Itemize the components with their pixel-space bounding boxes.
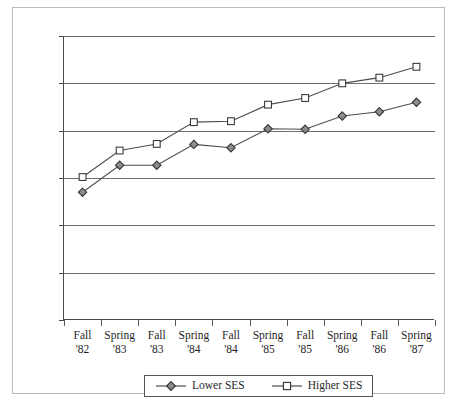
data-point[interactable]: [375, 108, 383, 116]
data-point[interactable]: [264, 125, 272, 133]
x-tick-mark: [138, 320, 139, 326]
x-tick-mark: [287, 320, 288, 326]
legend-square-icon: [271, 380, 303, 392]
chart-page: 0100200300400500600 Fall'82Spring'83Fall…: [0, 0, 457, 406]
data-point[interactable]: [153, 161, 161, 169]
legend-item-lower-ses[interactable]: Lower SES: [155, 379, 245, 392]
legend-diamond-icon: [155, 380, 187, 392]
x-axis-label: Spring'87: [384, 329, 448, 356]
legend-item-higher-ses[interactable]: Higher SES: [271, 379, 363, 392]
data-point[interactable]: [265, 101, 272, 108]
data-point[interactable]: [153, 141, 160, 148]
data-point[interactable]: [115, 161, 123, 169]
chart-frame: 0100200300400500600 Fall'82Spring'83Fall…: [12, 7, 445, 394]
data-point[interactable]: [190, 119, 197, 126]
data-point[interactable]: [338, 112, 346, 120]
x-tick-mark: [361, 320, 362, 326]
x-tick-mark: [101, 320, 102, 326]
data-point[interactable]: [190, 140, 198, 148]
data-point[interactable]: [228, 118, 235, 125]
data-point[interactable]: [79, 174, 86, 181]
series-layer: [64, 36, 435, 320]
x-label-year: '87: [384, 343, 448, 357]
data-point[interactable]: [412, 98, 420, 106]
data-point[interactable]: [301, 125, 309, 133]
data-point[interactable]: [78, 188, 86, 196]
x-label-season: Spring: [401, 329, 432, 341]
data-point[interactable]: [339, 80, 346, 87]
series-line-higher-ses: [83, 67, 417, 177]
x-tick-mark: [435, 320, 436, 326]
x-tick-mark: [398, 320, 399, 326]
data-point[interactable]: [302, 95, 309, 102]
data-point[interactable]: [227, 144, 235, 152]
data-point[interactable]: [376, 74, 383, 81]
chart-legend: Lower SES Higher SES: [144, 375, 373, 397]
legend-label-higher-ses: Higher SES: [308, 379, 363, 392]
x-tick-mark: [324, 320, 325, 326]
plot-area: 0100200300400500600 Fall'82Spring'83Fall…: [63, 36, 434, 320]
x-tick-mark: [250, 320, 251, 326]
data-point[interactable]: [413, 63, 420, 70]
x-tick-mark: [212, 320, 213, 326]
x-tick-mark: [175, 320, 176, 326]
series-line-lower-ses: [83, 102, 417, 192]
x-tick-mark: [64, 320, 65, 326]
legend-label-lower-ses: Lower SES: [192, 379, 245, 392]
data-point[interactable]: [116, 147, 123, 154]
